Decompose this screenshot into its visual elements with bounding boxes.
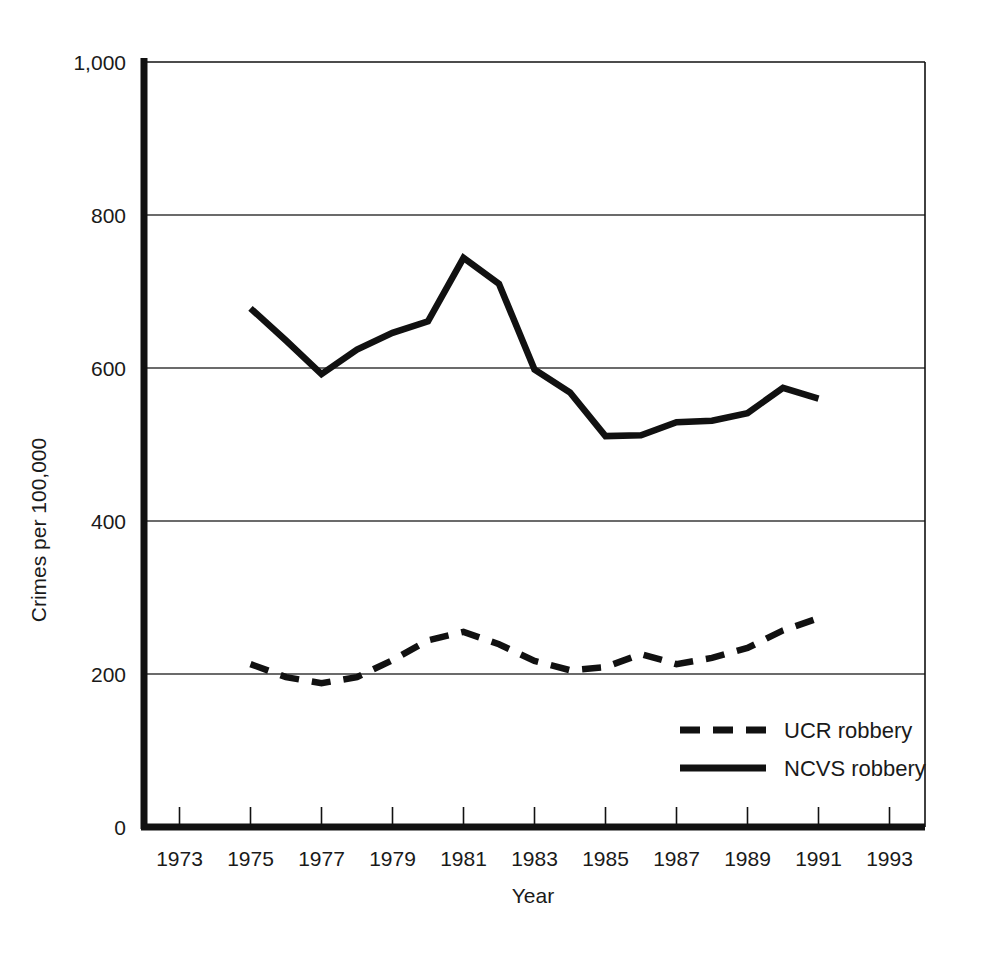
x-axis-title: Year: [512, 884, 554, 907]
x-tick-label-1977: 1977: [298, 847, 345, 870]
x-tick-label-1983: 1983: [511, 847, 558, 870]
y-tick-label-600: 600: [91, 357, 126, 380]
x-tick-label-1973: 1973: [156, 847, 203, 870]
y-tick-label-800: 800: [91, 204, 126, 227]
x-tick-label-1979: 1979: [369, 847, 416, 870]
x-tick-label-1985: 1985: [582, 847, 629, 870]
x-tick-label-1981: 1981: [440, 847, 487, 870]
chart-container: 02004006008001,000 197319751977197919811…: [0, 0, 984, 953]
y-tick-label-0: 0: [114, 816, 126, 839]
x-tick-labels: 1973197519771979198119831985198719891991…: [156, 847, 913, 870]
robbery-rates-line-chart: 02004006008001,000 197319751977197919811…: [0, 0, 984, 953]
y-tick-label-200: 200: [91, 663, 126, 686]
chart-background: [0, 0, 984, 953]
legend-label-ncvs-robbery: NCVS robbery: [784, 756, 926, 781]
y-tick-label-1000: 1,000: [73, 51, 126, 74]
x-tick-label-1989: 1989: [724, 847, 771, 870]
x-tick-label-1987: 1987: [653, 847, 700, 870]
legend-label-ucr-robbery: UCR robbery: [784, 718, 912, 743]
x-tick-label-1991: 1991: [795, 847, 842, 870]
y-axis-title: Crimes per 100,000: [27, 438, 50, 622]
x-tick-label-1975: 1975: [227, 847, 274, 870]
y-tick-label-400: 400: [91, 510, 126, 533]
x-tick-label-1993: 1993: [866, 847, 913, 870]
